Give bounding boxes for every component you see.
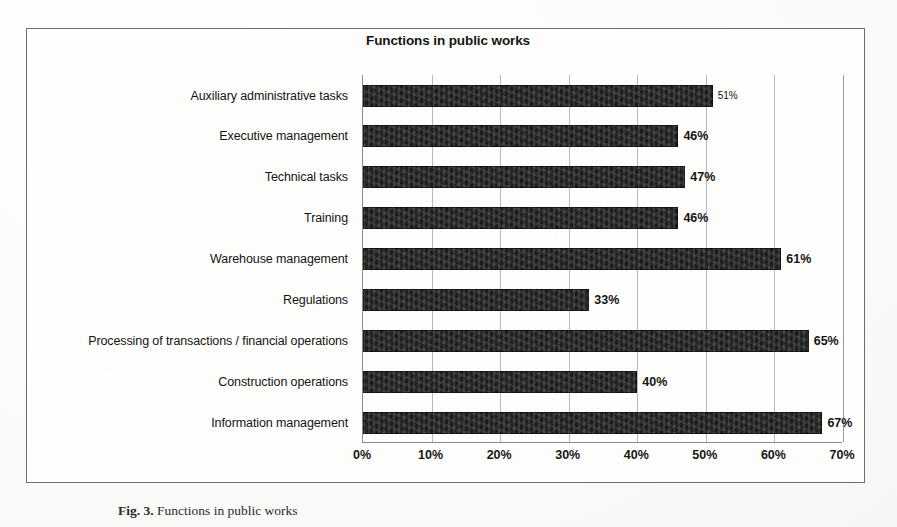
bar-value-label: 65% (814, 334, 839, 348)
bar-value-label: 67% (827, 416, 852, 430)
category-label: Warehouse management (210, 239, 348, 280)
x-tick-label: 20% (487, 448, 512, 462)
bar-value-label: 47% (690, 170, 715, 184)
bar-row: 67% (363, 402, 897, 443)
caption-text: Functions in public works (157, 503, 298, 518)
bar (363, 371, 637, 393)
bar (363, 330, 809, 352)
category-label: Technical tasks (265, 157, 348, 198)
category-label: Auxiliary administrative tasks (191, 75, 348, 116)
bar-value-label: 33% (594, 293, 619, 307)
bar-row: 61% (363, 239, 897, 280)
category-label: Executive management (219, 116, 348, 157)
bar (363, 412, 822, 434)
plot-area: 51%46%47%46%61%33%65%40%67% (362, 75, 842, 443)
bar-row: 46% (363, 198, 897, 239)
bar-row: 46% (363, 116, 897, 157)
x-tick-label: 70% (829, 448, 854, 462)
category-label: Processing of transactions / financial o… (88, 320, 348, 361)
bar (363, 166, 685, 188)
category-label: Regulations (283, 279, 348, 320)
bar (363, 289, 589, 311)
x-tick-label: 60% (761, 448, 786, 462)
bar-row: 47% (363, 157, 897, 198)
chart-title: Functions in public works (366, 33, 530, 48)
bar (363, 85, 713, 107)
category-label: Information management (211, 402, 348, 443)
x-axis-tick-labels: 0%10%20%30%40%50%60%70% (362, 448, 842, 468)
x-tick-label: 40% (624, 448, 649, 462)
x-tick-label: 0% (353, 448, 371, 462)
bars-layer: 51%46%47%46%61%33%65%40%67% (363, 75, 842, 442)
bar-value-label: 61% (786, 252, 811, 266)
x-tick-label: 10% (418, 448, 443, 462)
bar-row: 51% (363, 75, 897, 116)
bar-value-label: 46% (683, 211, 708, 225)
category-label: Construction operations (218, 361, 348, 402)
category-axis-labels: Auxiliary administrative tasksExecutive … (0, 75, 356, 443)
bar (363, 125, 678, 147)
category-label: Training (304, 198, 348, 239)
bar-row: 33% (363, 279, 897, 320)
bar-row: 40% (363, 361, 897, 402)
bar-value-label: 40% (642, 375, 667, 389)
bar (363, 248, 781, 270)
x-tick-label: 50% (692, 448, 717, 462)
bar-value-label: 51% (718, 90, 738, 101)
bar-row: 65% (363, 320, 897, 361)
figure-caption: Fig. 3. Functions in public works (118, 503, 298, 519)
x-tick-label: 30% (555, 448, 580, 462)
bar (363, 207, 678, 229)
bar-value-label: 46% (683, 129, 708, 143)
caption-label: Fig. 3. (118, 503, 154, 518)
